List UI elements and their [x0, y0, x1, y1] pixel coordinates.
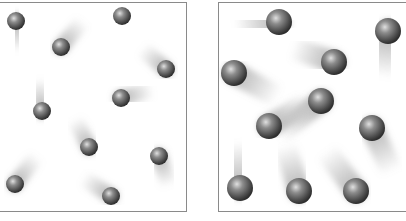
gas-particle — [256, 113, 282, 139]
particles-scene — [0, 0, 406, 221]
gas-particle — [321, 49, 347, 75]
gas-particle — [286, 178, 312, 204]
gas-particle — [6, 175, 24, 193]
gas-particle — [7, 12, 25, 30]
motion-trails — [15, 16, 392, 196]
gas-particle — [150, 147, 168, 165]
gas-particle — [343, 178, 369, 204]
gas-particle — [266, 9, 292, 35]
gas-particle — [359, 115, 385, 141]
gas-particle — [227, 175, 253, 201]
gas-particle — [102, 187, 120, 205]
gas-particle — [80, 138, 98, 156]
gas-particle — [33, 102, 51, 120]
gas-particle — [113, 7, 131, 25]
gas-particle — [221, 60, 247, 86]
gas-particle — [157, 60, 175, 78]
gas-particle — [375, 18, 401, 44]
gas-particle — [112, 89, 130, 107]
gas-particle — [52, 38, 70, 56]
gas-particle — [308, 88, 334, 114]
